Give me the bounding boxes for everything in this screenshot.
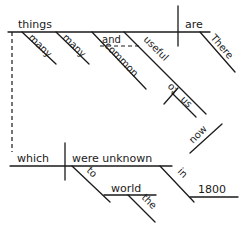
- word-subject: things: [18, 18, 52, 31]
- word-us: us: [179, 94, 195, 110]
- word-in: in: [176, 166, 190, 180]
- word-and: and: [102, 34, 121, 45]
- word-world: world: [111, 182, 141, 195]
- word-which: which: [17, 152, 49, 165]
- word-to-us: to: [165, 81, 180, 96]
- word-many-2: many: [61, 32, 89, 60]
- word-many-1: many: [27, 32, 55, 60]
- word-useful: useful: [142, 34, 171, 63]
- word-were-unknown: were unknown: [72, 152, 152, 165]
- sentence-diagram: things are There many many common and us…: [0, 0, 246, 229]
- word-to-world: to: [85, 165, 100, 180]
- word-1800: 1800: [198, 183, 226, 196]
- word-verb: are: [185, 18, 203, 31]
- word-now: now: [187, 123, 209, 145]
